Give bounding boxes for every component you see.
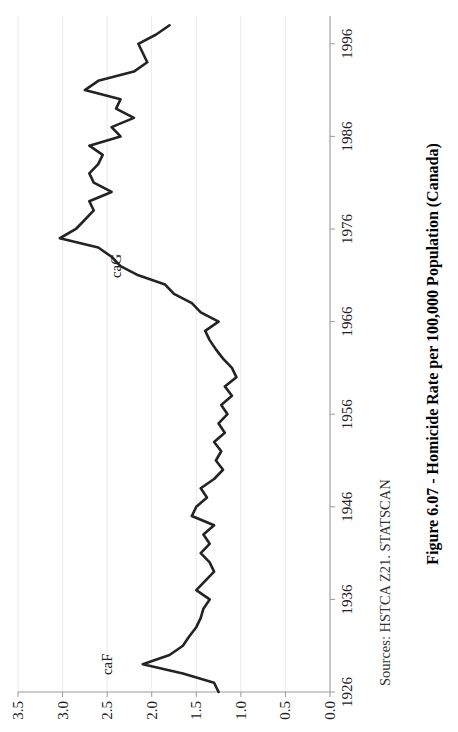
x-tick-label: 1926 [339, 677, 355, 708]
y-tick-label: 2.5 [99, 701, 115, 720]
y-tick-label: 2.0 [144, 701, 160, 720]
x-tick-label: 1996 [339, 28, 355, 59]
y-tick-label: 1.5 [188, 701, 204, 720]
annotation-caf: caF [99, 653, 115, 675]
chart-plot-area: 0.00.51.01.52.02.53.03.5 192619361946195… [0, 0, 458, 732]
figure-title: Figure 6.07 - Homicide Rate per 100,000 … [424, 143, 442, 565]
y-tick-label: 3.0 [55, 701, 71, 720]
figure-canvas: 0.00.51.01.52.02.53.03.5 192619361946195… [0, 0, 458, 732]
homicide-rate-line-chart: 0.00.51.01.52.02.53.03.5 192619361946195… [0, 0, 458, 732]
x-tick-label: 1976 [339, 213, 355, 244]
y-tick-label: 0.5 [277, 701, 293, 720]
homicide-rate-series [60, 25, 237, 692]
series-layer [60, 25, 237, 692]
x-tick-label: 1936 [339, 584, 355, 615]
rotated-figure-container: 0.00.51.01.52.02.53.03.5 192619361946195… [0, 0, 458, 732]
series-annotations: caFcaG [99, 254, 124, 675]
y-tick-label: 0.0 [322, 701, 338, 720]
x-tick-label: 1956 [339, 399, 355, 430]
source-note: Sources: HSTCA Z21. STATSCAN [377, 479, 393, 686]
axis-layer [18, 16, 335, 697]
x-tick-label: 1946 [339, 491, 355, 522]
x-tick-label: 1966 [339, 306, 355, 337]
grid-layer [18, 16, 330, 692]
x-axis-tick-labels: 19261936194619561966197619861996 [339, 28, 355, 707]
y-tick-label: 1.0 [233, 701, 249, 720]
x-tick-label: 1986 [339, 121, 355, 152]
y-axis-tick-labels: 0.00.51.01.52.02.53.03.5 [10, 701, 338, 720]
y-tick-label: 3.5 [10, 701, 26, 720]
annotation-cag: caG [108, 254, 124, 278]
